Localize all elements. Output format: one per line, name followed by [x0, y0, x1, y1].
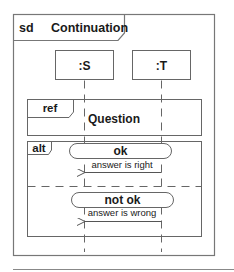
lifeline-label-s: :S — [79, 59, 91, 73]
lifeline-t: :T — [133, 51, 191, 80]
continuation-ok-label: ok — [113, 144, 127, 158]
ref-name: Question — [88, 112, 140, 126]
lifeline-label-t: :T — [156, 59, 168, 73]
message-answer-right-label: answer is right — [91, 159, 153, 170]
alt-operator-label: alt — [32, 142, 46, 154]
lifeline-s: :S — [56, 51, 114, 80]
ref-operator-label: ref — [43, 102, 58, 114]
frame-title: Continuation — [51, 21, 128, 35]
message-answer-wrong-label: answer is wrong — [88, 207, 157, 218]
frame-kind-label: sd — [19, 21, 34, 35]
sequence-diagram: sd Continuation :S :T ref Question alt o… — [0, 0, 234, 272]
continuation-not-ok-label: not ok — [105, 193, 141, 207]
